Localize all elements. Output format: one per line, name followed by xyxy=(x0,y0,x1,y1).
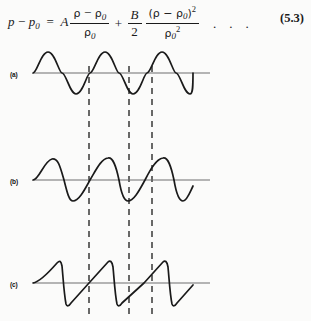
second-numerator-power: 2 xyxy=(192,4,196,14)
panel-c xyxy=(33,261,210,306)
second-numerator-group: (ρ − ρ xyxy=(149,7,183,20)
dashed-guide-lines xyxy=(89,66,152,318)
first-term-fraction: ρ−ρ0 ρ0 xyxy=(70,6,109,41)
rho0-symbol: ρ xyxy=(95,7,102,20)
dot-3: . xyxy=(246,16,249,31)
second-denominator-power: 2 xyxy=(176,24,180,34)
first-term-denominator: ρ0 xyxy=(81,24,98,41)
panel-a xyxy=(33,52,210,94)
lhs-p0-sub: 0 xyxy=(35,21,40,31)
lhs-minus: − xyxy=(18,14,25,29)
panel-b xyxy=(33,158,210,201)
dot-1: . xyxy=(213,16,216,31)
equation-lhs: p−p0 = A xyxy=(8,15,68,31)
b-over-two-fraction: B 2 xyxy=(128,8,142,38)
dot-2: . xyxy=(229,16,232,31)
rho-symbol: ρ xyxy=(73,7,80,20)
coefficient-B: B xyxy=(128,8,142,24)
plus-sign: + xyxy=(115,17,122,30)
waveform-svg xyxy=(0,46,311,321)
first-term-numerator: ρ−ρ0 xyxy=(70,6,109,24)
equals-sign: = xyxy=(47,14,54,29)
panel-label-b: (b) xyxy=(10,178,18,185)
second-term-fraction: (ρ − ρ0)2 ρ02 xyxy=(146,5,200,41)
coefficient-A: A xyxy=(60,14,68,29)
coefficient-B-denominator: 2 xyxy=(128,24,141,39)
equation-5-3: p−p0 = A ρ−ρ0 ρ0 + B 2 (ρ − ρ0)2 ρ02 ... xyxy=(0,0,311,46)
trailing-ellipsis: ... xyxy=(213,17,262,30)
denominator-rho: ρ xyxy=(84,26,91,39)
second-term-denominator: ρ02 xyxy=(161,24,183,42)
equation-number: (5.3) xyxy=(280,11,304,26)
panel-label-c: (c) xyxy=(10,281,18,288)
textbook-page: p−p0 = A ρ−ρ0 ρ0 + B 2 (ρ − ρ0)2 ρ02 ...… xyxy=(0,0,311,321)
panel-label-a: (a) xyxy=(10,71,18,78)
lhs-p: p xyxy=(8,14,15,29)
waveform-figure: (a) (b) (c) xyxy=(0,46,311,321)
rho0-subscript: 0 xyxy=(102,11,107,21)
numerator-minus: − xyxy=(84,5,91,20)
second-term-numerator: (ρ − ρ0)2 xyxy=(146,5,200,24)
denominator-rho-sub: 0 xyxy=(91,30,96,40)
